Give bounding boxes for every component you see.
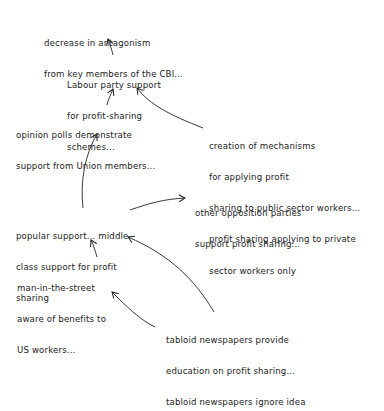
node-opposition-parties: other opposition parties support profit …: [195, 187, 302, 270]
node-line: for applying profit: [209, 172, 360, 182]
node-line: other opposition parties: [195, 208, 302, 218]
node-line: decrease in antagonism: [44, 38, 183, 48]
node-line: tabloid newspapers ignore idea: [166, 397, 306, 407]
node-line: tabloid newspapers provide: [166, 335, 306, 345]
node-man-in-the-street: man-in-the-street aware of benefits to U…: [17, 262, 106, 376]
node-line: support from Union members...: [16, 161, 155, 171]
node-line: US workers...: [17, 345, 106, 355]
arrow-popular-to-opposition: [130, 198, 185, 210]
node-line: opinion polls demonstrate: [16, 130, 155, 140]
node-opinion-polls: opinion polls demonstrate support from U…: [16, 109, 155, 192]
node-line: man-in-the-street: [17, 283, 106, 293]
node-line: creation of mechanisms: [209, 141, 360, 151]
node-line: popular support... middle: [16, 231, 129, 241]
node-tabloid-newspapers: tabloid newspapers provide education on …: [166, 314, 306, 411]
node-line: support profit sharing...: [195, 239, 302, 249]
node-line: education on profit sharing...: [166, 366, 306, 376]
node-line: Labour party support: [67, 80, 161, 90]
node-line: aware of benefits to: [17, 314, 106, 324]
